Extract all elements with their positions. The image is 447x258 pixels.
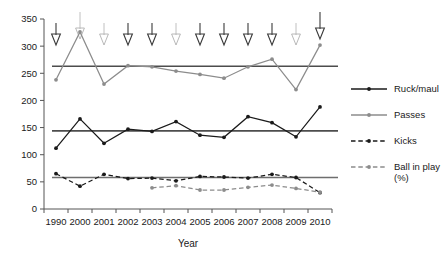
x-axis-tick-label: 2004: [165, 216, 186, 227]
legend-marker: [367, 87, 371, 91]
series-point: [318, 190, 322, 194]
series-point: [102, 141, 106, 145]
legend-label: Ruck/maul: [394, 83, 439, 94]
x-axis-tick-label: 2000: [69, 216, 90, 227]
series-point: [150, 186, 154, 190]
legend-marker: [367, 139, 371, 143]
series-line: [56, 32, 320, 90]
series-point: [246, 65, 250, 69]
legend-marker: [367, 165, 371, 169]
annotation-arrows: [52, 12, 325, 45]
down-arrow-head: [100, 34, 109, 45]
series-point: [198, 73, 202, 77]
series-point: [78, 117, 82, 121]
y-axis-tick-label: 150: [21, 122, 37, 133]
series-point: [150, 130, 154, 134]
legend-label: Passes: [394, 109, 425, 120]
legend-label: Kicks: [394, 135, 417, 146]
y-axis-tick-label: 300: [21, 41, 37, 52]
down-arrow-head: [52, 34, 61, 45]
series-point: [294, 187, 298, 191]
series-point: [126, 177, 130, 181]
series-line: [56, 107, 320, 148]
series-point: [126, 127, 130, 131]
series-point: [54, 78, 58, 82]
series-point: [294, 135, 298, 139]
x-axis-tick-label: 1990: [45, 216, 66, 227]
down-arrow-head: [148, 34, 157, 45]
mean-reference-lines: [52, 66, 338, 177]
series-point: [246, 185, 250, 189]
series-point: [222, 175, 226, 179]
x-axis-tick-label: 2006: [213, 216, 234, 227]
series-point: [150, 65, 154, 69]
series-point: [54, 146, 58, 150]
x-axis-tick-label: 2008: [261, 216, 282, 227]
series-point: [270, 183, 274, 187]
x-axis-tick-label: 2007: [237, 216, 258, 227]
y-axis-tick-label: 200: [21, 95, 37, 106]
y-axis-tick-label: 250: [21, 68, 37, 79]
down-arrow-head: [316, 28, 325, 39]
series-point: [54, 172, 58, 176]
line-chart: 050100150200250300350 199020002001200220…: [0, 0, 447, 258]
x-axis-tick-label: 2010: [309, 216, 330, 227]
down-arrow-head: [268, 34, 277, 45]
y-axis-tick-label: 350: [21, 13, 37, 24]
chart-legend: Ruck/maulPassesKicksBall in play(%): [351, 83, 440, 183]
series-point: [126, 64, 130, 68]
series-point: [78, 30, 82, 34]
series-point: [270, 172, 274, 176]
legend-label: Ball in play: [394, 161, 440, 172]
data-series-group: [54, 30, 322, 195]
x-axis-title: Year: [178, 238, 199, 249]
series-point: [174, 120, 178, 124]
series-point: [222, 188, 226, 192]
series-point: [270, 121, 274, 125]
x-axis-tick-label: 2005: [189, 216, 210, 227]
series-point: [222, 76, 226, 80]
series-point: [198, 175, 202, 179]
series-point: [294, 88, 298, 92]
legend-marker: [367, 113, 371, 117]
y-axis-tick-label: 50: [26, 176, 37, 187]
x-axis-ticks: [44, 209, 332, 213]
chart-root: 050100150200250300350 199020002001200220…: [0, 0, 447, 258]
down-arrow-head: [292, 34, 301, 45]
series-point: [150, 176, 154, 180]
series-point: [174, 179, 178, 183]
down-arrow-head: [124, 34, 133, 45]
down-arrow-head: [196, 34, 205, 45]
series-point: [318, 43, 322, 47]
series-line: [56, 174, 320, 193]
x-axis-tick-label: 2001: [93, 216, 114, 227]
series-point: [102, 82, 106, 86]
series-point: [318, 105, 322, 109]
y-axis-tick-label: 0: [32, 203, 37, 214]
x-axis-tick-label: 2003: [141, 216, 162, 227]
series-point: [222, 135, 226, 139]
down-arrow-head: [172, 34, 181, 45]
down-arrow-head: [244, 34, 253, 45]
series-point: [174, 69, 178, 73]
series-point: [294, 176, 298, 180]
x-axis-tick-labels: 1990200020012002200320042005200620072008…: [45, 216, 330, 227]
series-point: [198, 188, 202, 192]
series-point: [246, 176, 250, 180]
y-axis-tick-label: 100: [21, 149, 37, 160]
series-point: [270, 57, 274, 61]
x-axis-tick-label: 2009: [285, 216, 306, 227]
x-axis-tick-label: 2002: [117, 216, 138, 227]
series-point: [174, 184, 178, 188]
series-point: [246, 115, 250, 119]
series-point: [78, 184, 82, 188]
y-axis-ticks: [40, 19, 44, 209]
y-axis-tick-labels: 050100150200250300350: [21, 13, 37, 214]
down-arrow-head: [220, 34, 229, 45]
chart-svg: 050100150200250300350 199020002001200220…: [0, 0, 447, 258]
series-point: [102, 172, 106, 176]
series-point: [198, 133, 202, 137]
legend-label-line2: (%): [394, 172, 409, 183]
